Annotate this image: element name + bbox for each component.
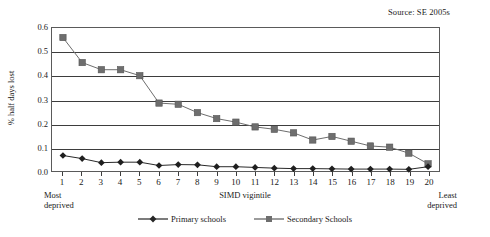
legend-label-secondary: Secondary Schools [287,214,352,224]
data-point [271,126,277,132]
x-tick-label: 10 [231,178,240,187]
x-tick-label: 2 [79,178,84,187]
data-point [252,124,258,130]
x-tick-mark [352,172,353,176]
x-tick-label: 5 [137,178,142,187]
y-tick-label: 0.5 [37,47,48,56]
x-tick-label: 6 [156,178,161,187]
most-deprived-line2: deprived [44,200,74,210]
diamond-marker-icon [138,214,168,224]
x-axis-title: SIMD vigintile [219,190,271,200]
y-axis-title: % half days lost [6,71,16,126]
data-point [233,119,239,125]
x-tick-mark [236,172,237,176]
data-point [137,73,143,79]
x-tick-mark [332,172,333,176]
data-point [290,130,296,136]
y-tick-label: 0.4 [37,71,48,80]
x-tick-mark [294,172,295,176]
y-tick-label: 0.6 [37,23,48,32]
most-deprived-line1: Most [44,190,61,200]
x-tick-mark [429,172,430,176]
data-point [60,152,67,159]
data-point [309,165,316,172]
data-point [213,115,219,121]
x-tick-mark [217,172,218,176]
x-tick-label: 9 [214,178,219,187]
x-tick-mark [139,172,140,176]
data-point [156,100,162,106]
y-tick-label: 0.1 [37,144,48,153]
data-point [117,67,123,73]
x-tick-mark [313,172,314,176]
least-deprived-label: Least deprived [427,190,457,210]
data-point [213,163,220,170]
x-tick-label: 11 [251,178,260,187]
data-point [386,144,392,150]
x-tick-label: 18 [386,178,395,187]
y-tick-label: 0.0 [37,168,48,177]
series-square [60,34,431,167]
square-marker-icon [254,214,284,224]
data-point [348,138,354,144]
chart-figure: Source: SE 2005s % half days lost 0.60.5… [0,0,490,237]
most-deprived-label: Most deprived [44,190,74,210]
x-tick-label: 19 [405,178,414,187]
x-tick-label: 16 [347,178,356,187]
data-point [175,101,181,107]
x-tick-label: 17 [367,178,376,187]
x-tick-mark [390,172,391,176]
y-tick-label: 0.3 [37,95,48,104]
x-tick-mark [371,172,372,176]
x-tick-mark [81,172,82,176]
data-point [98,159,105,166]
y-tick-label: 0.2 [37,119,48,128]
plot-area [51,27,440,172]
x-tick-mark [62,172,63,176]
source-note: Source: SE 2005s [388,7,450,17]
x-tick-mark [120,172,121,176]
x-axis-tick-labels: 1234567891011121314151617181920 [51,172,440,186]
x-tick-mark [178,172,179,176]
data-point [60,34,66,40]
x-tick-label: 13 [289,178,298,187]
y-axis-tick-labels: 0.60.50.40.30.20.10.0 [22,27,48,172]
data-point [406,150,412,156]
x-tick-label: 8 [195,178,200,187]
data-point [79,59,85,65]
data-point [98,67,104,73]
chart-legend: Primary schools Secondary Schools [0,214,490,224]
data-point [136,159,143,166]
x-tick-mark [410,172,411,176]
x-tick-label: 14 [309,178,318,187]
x-tick-mark [274,172,275,176]
x-tick-mark [159,172,160,176]
data-point [156,162,163,169]
data-point [175,161,182,168]
legend-item-secondary: Secondary Schools [254,214,352,224]
x-tick-mark [255,172,256,176]
x-tick-mark [197,172,198,176]
data-point [367,143,373,149]
data-point [194,161,201,168]
data-point [233,163,240,170]
series-diamond [60,152,432,173]
data-point [290,165,297,172]
data-point [271,165,278,172]
x-tick-label: 1 [60,178,65,187]
data-point [117,159,124,166]
data-point [79,155,86,162]
legend-item-primary: Primary schools [138,214,226,224]
x-tick-label: 3 [98,178,103,187]
x-tick-mark [101,172,102,176]
least-deprived-line1: Least [439,190,457,200]
legend-label-primary: Primary schools [171,214,226,224]
x-tick-label: 4 [118,178,123,187]
x-tick-label: 20 [425,178,434,187]
data-point [252,164,259,171]
least-deprived-line2: deprived [427,200,457,210]
data-point [310,137,316,143]
x-tick-label: 7 [176,178,181,187]
data-point [194,109,200,115]
x-tick-label: 12 [270,178,279,187]
